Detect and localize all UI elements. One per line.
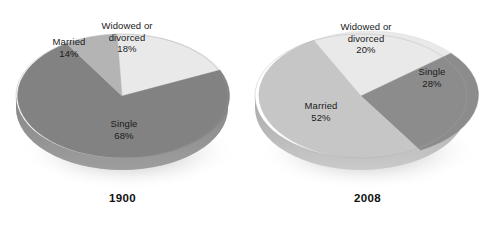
pie-1900: Widowed or divorced 18% Single 68% Marri… bbox=[0, 0, 245, 195]
pie-1900-svg bbox=[0, 0, 245, 195]
chart-caption-1900: 1900 bbox=[0, 192, 245, 204]
chart-2008: Widowed or divorced 20% Single 28% Marri… bbox=[245, 0, 490, 231]
chart-1900: Widowed or divorced 18% Single 68% Marri… bbox=[0, 0, 245, 231]
pie-chart-figure: Widowed or divorced 18% Single 68% Marri… bbox=[0, 0, 490, 231]
pie-2008-svg bbox=[245, 0, 490, 195]
pie-2008: Widowed or divorced 20% Single 28% Marri… bbox=[245, 0, 490, 195]
chart-caption-2008: 2008 bbox=[245, 192, 490, 204]
